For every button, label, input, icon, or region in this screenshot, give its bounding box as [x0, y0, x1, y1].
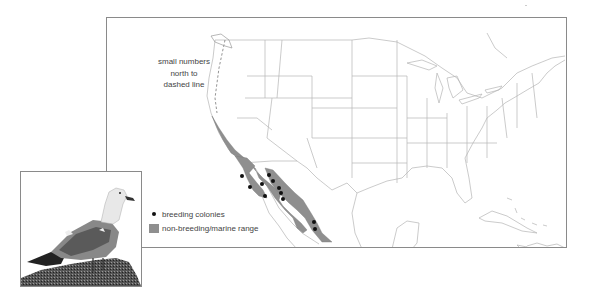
stray-mark — [525, 5, 527, 6]
range-swatch-icon — [149, 224, 159, 233]
map-legend: breeding colonies non-breeding/marine ra… — [148, 207, 259, 235]
legend-item-breeding-colonies: breeding colonies — [148, 207, 259, 221]
dashed-line-annotation: small numbers north to dashed line — [148, 56, 220, 91]
legend-label: breeding colonies — [162, 210, 225, 219]
gull-illustration — [21, 172, 141, 286]
gull-photo — [20, 171, 142, 287]
annotation-line-1: small numbers — [148, 56, 220, 68]
legend-label: non-breeding/marine range — [162, 224, 259, 233]
legend-item-non-breeding-range: non-breeding/marine range — [148, 221, 259, 235]
annotation-line-3: dashed line — [148, 79, 220, 91]
annotation-line-2: north to — [148, 68, 220, 80]
breeding-colony-dot-icon — [152, 212, 156, 216]
